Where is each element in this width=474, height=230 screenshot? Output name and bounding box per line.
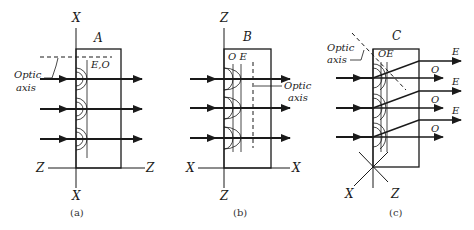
panel-b: Z Z X X B O E Optic axis (185, 11, 312, 218)
axis-label-bottom: Z (219, 189, 229, 203)
crystal-label: B (242, 30, 252, 44)
panel-c: C X Z Optic axis OE (327, 29, 461, 218)
birefringence-diagram: X X Z Z A Optic axis E,O (0, 0, 474, 230)
ray-label-o: O (431, 123, 439, 134)
axis-label-right: Z (145, 161, 155, 175)
axis-label-left: X (185, 161, 195, 175)
ray-label-o: O (431, 64, 439, 75)
light-rays (190, 79, 290, 138)
wavefront-label: O E (228, 51, 247, 62)
optic-axis-label-2: axis (16, 82, 36, 93)
ray-label-e: E (451, 76, 460, 87)
optic-axis-label-2: axis (327, 54, 347, 65)
crystal-label: C (392, 29, 401, 43)
optic-axis-label: Optic (284, 80, 312, 91)
light-rays (40, 79, 142, 139)
panel-caption: (c) (389, 207, 403, 218)
incoming-rays (336, 78, 373, 137)
axis-label-bottom: X (71, 189, 81, 203)
crystal-label: A (93, 31, 103, 45)
optic-axis-leader (44, 58, 58, 78)
axis-label-top: X (71, 11, 81, 25)
ray-label-e: E (451, 105, 460, 116)
axis-label-top: Z (219, 11, 229, 25)
optic-axis-label: Optic (327, 42, 355, 53)
ray-label-e: E (451, 46, 460, 57)
wavefront-label: E,O (90, 59, 110, 70)
panel-caption: (a) (70, 207, 84, 218)
panel-caption: (b) (233, 207, 247, 218)
axis-label-right: X (291, 161, 301, 175)
panel-a: X X Z Z A Optic axis E,O (14, 11, 155, 218)
x-axis-line (354, 152, 388, 186)
extraordinary-rays (373, 61, 461, 137)
axis-label-z: Z (390, 187, 400, 201)
axis-label-left: Z (35, 161, 45, 175)
wavefront-label: OE (378, 48, 394, 59)
ray-label-o: O (431, 94, 439, 105)
axis-label-x: X (344, 187, 354, 201)
optic-axis-label: Optic (14, 69, 42, 80)
optic-axis-label-2: axis (288, 92, 308, 103)
